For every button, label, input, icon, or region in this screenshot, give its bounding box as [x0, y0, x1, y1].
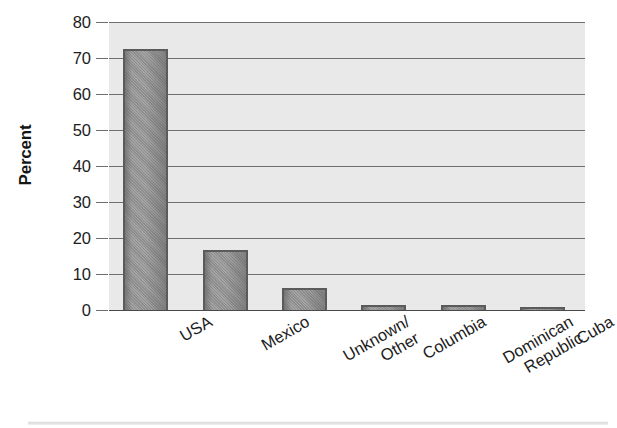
x-axis-tick-label-line: Mexico: [258, 312, 312, 354]
bar: [520, 307, 565, 310]
y-axis-tick-mark: [96, 22, 108, 23]
x-axis-tick-label-line: Columbia: [419, 312, 488, 362]
x-axis-tick-labels: USAMexicoUnknown/OtherColumbiaDominicanR…: [109, 312, 585, 402]
scan-artifact-band: [28, 421, 608, 425]
y-axis-tick-label: 0: [82, 302, 91, 319]
x-axis-tick-label-line: USA: [176, 312, 214, 345]
y-axis-tick-mark: [96, 166, 108, 167]
x-axis-tick-label: Cuba: [574, 312, 617, 348]
y-axis-tick-mark: [96, 202, 108, 203]
x-axis-tick-label: Unknown/Other: [340, 312, 422, 381]
y-axis-tick-label: 80: [73, 14, 91, 31]
y-axis-tick-mark: [96, 94, 108, 95]
y-axis-tick-mark: [96, 310, 108, 311]
bar: [361, 305, 406, 310]
x-axis-tick-label: Columbia: [419, 312, 489, 363]
y-axis-tick-label: 70: [73, 50, 91, 67]
y-axis-tick-label: 60: [73, 86, 91, 103]
x-axis-tick-label-line: Cuba: [574, 312, 617, 347]
bars-layer: [109, 22, 585, 310]
y-axis-tick-mark: [96, 238, 108, 239]
y-axis-tick-mark: [96, 274, 108, 275]
bar: [203, 250, 248, 310]
x-axis-tick-label: DominicanRepublic: [499, 312, 585, 384]
bar-chart-figure: Percent 01020304050607080 USAMexicoUnkno…: [0, 0, 617, 428]
y-axis-tick-mark: [96, 58, 108, 59]
x-axis-tick-label: Mexico: [258, 312, 313, 354]
plot-area: 01020304050607080: [109, 22, 585, 310]
bar: [282, 288, 327, 310]
bar: [441, 305, 486, 310]
y-axis-title: Percent: [16, 105, 36, 205]
y-axis-tick-label: 20: [73, 230, 91, 247]
bar: [123, 49, 168, 310]
y-axis-tick-label: 10: [73, 266, 91, 283]
y-axis-tick-label: 40: [73, 158, 91, 175]
x-axis-tick-label: USA: [176, 312, 215, 345]
y-axis-tick-label: 30: [73, 194, 91, 211]
y-axis-tick-label: 50: [73, 122, 91, 139]
y-axis-tick-mark: [96, 130, 108, 131]
